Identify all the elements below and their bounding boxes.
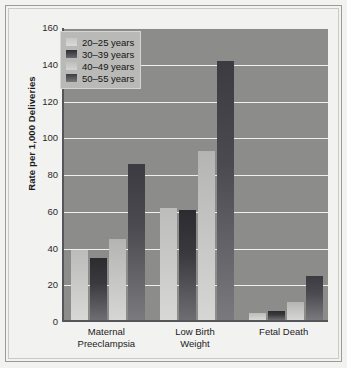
bar (179, 210, 196, 320)
bar (249, 313, 266, 320)
y-axis-tick-label: 100 (28, 133, 58, 143)
x-axis-category-label: Fetal Death (239, 326, 328, 338)
bar (109, 239, 126, 320)
figure-root: Rate per 1,000 Deliveries 16014012010080… (0, 0, 347, 368)
bar (128, 164, 145, 320)
x-axis-category-label-line: Weight (151, 338, 240, 350)
legend-item: 50–55 years (66, 72, 134, 84)
y-axis-tick-label: 160 (28, 23, 58, 33)
x-axis-category-label-line: Preeclampsia (62, 338, 151, 350)
x-axis-category-labels: MaternalPreeclampsiaLow BirthWeightFetal… (62, 326, 328, 360)
bar (217, 61, 234, 320)
legend-item: 30–39 years (66, 48, 134, 60)
bar (90, 258, 107, 320)
x-axis-category-label-line: Low Birth (151, 326, 240, 338)
legend-swatch-icon (66, 74, 77, 82)
legend-item-label: 20–25 years (82, 37, 134, 48)
bar (160, 208, 177, 320)
bar (71, 250, 88, 320)
legend-item: 20–25 years (66, 36, 134, 48)
bar (287, 302, 304, 320)
bar (268, 311, 285, 320)
y-axis-tick-label: 0 (28, 317, 58, 327)
y-axis-tick-label: 60 (28, 207, 58, 217)
legend: 20–25 years30–39 years40–49 years50–55 y… (60, 31, 141, 89)
bar-group (241, 28, 328, 320)
y-axis-tick-label: 40 (28, 244, 58, 254)
legend-swatch-icon (66, 62, 77, 70)
y-axis-tick-label: 20 (28, 280, 58, 290)
y-axis-tick-label: 140 (28, 60, 58, 70)
legend-swatch-icon (66, 38, 77, 46)
x-axis-category-label-line: Fetal Death (239, 326, 328, 338)
x-axis-category-label-line: Maternal (62, 326, 151, 338)
legend-item: 40–49 years (66, 60, 134, 72)
y-axis-tick-labels: 160140120100806040200 (24, 28, 58, 322)
legend-swatch-icon (66, 50, 77, 58)
x-axis-category-label: MaternalPreeclampsia (62, 326, 151, 350)
legend-item-label: 30–39 years (82, 49, 134, 60)
legend-item-label: 40–49 years (82, 61, 134, 72)
x-axis-category-label: Low BirthWeight (151, 326, 240, 350)
y-axis-tick-label: 120 (28, 97, 58, 107)
legend-item-label: 50–55 years (82, 73, 134, 84)
bar (306, 276, 323, 320)
y-axis-tick-label: 80 (28, 170, 58, 180)
bar (198, 151, 215, 320)
bar-group (153, 28, 242, 320)
